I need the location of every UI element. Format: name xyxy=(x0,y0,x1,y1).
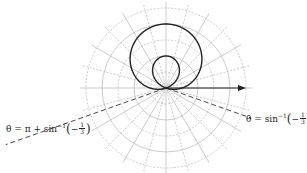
label-text: θ = sin xyxy=(246,114,278,124)
minus-sign: − xyxy=(71,124,79,134)
polar-axis-arrow xyxy=(166,85,246,91)
polar-plot xyxy=(0,0,307,173)
fraction: 13 xyxy=(300,112,306,125)
minus-sign: − xyxy=(292,114,300,124)
label-right-angle: θ = sin −1 (− 13 ) xyxy=(246,112,307,125)
inverse-superscript: −1 xyxy=(57,122,66,129)
label-left-angle: θ = π + sin −1 (− 13 ) xyxy=(6,122,91,135)
label-text: θ = π + sin xyxy=(6,124,57,134)
fraction: 13 xyxy=(79,122,85,135)
inverse-superscript: −1 xyxy=(278,112,287,119)
